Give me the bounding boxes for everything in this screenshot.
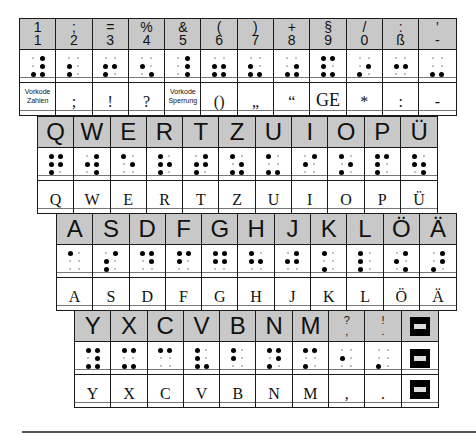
- braille-cell: [275, 245, 310, 278]
- key-+[interactable]: +8“: [274, 19, 310, 115]
- key-K[interactable]: KK: [311, 214, 347, 310]
- braille-dot-3: [158, 170, 163, 175]
- key-E[interactable]: EE: [111, 117, 147, 213]
- key-%[interactable]: %4?: [129, 19, 165, 115]
- braille-dot-2: [305, 357, 307, 359]
- key-block[interactable]: [402, 311, 438, 407]
- key-legend: +8: [274, 19, 309, 50]
- braille-dot-4: [77, 57, 79, 59]
- base-char: ß: [396, 34, 405, 47]
- key-?[interactable]: ?,,: [329, 311, 365, 407]
- braille-dot-1: [68, 251, 73, 256]
- key-![interactable]: !..: [365, 311, 401, 407]
- braille-dot-3: [177, 73, 179, 75]
- key-C[interactable]: CC: [148, 311, 184, 407]
- key-J[interactable]: JJ: [275, 214, 311, 310]
- braille-dot-6: [204, 364, 209, 369]
- key-G[interactable]: GG: [202, 214, 238, 310]
- braille-dot-2: [87, 357, 89, 359]
- key-F[interactable]: FF: [166, 214, 202, 310]
- key-Y[interactable]: YY: [75, 311, 111, 407]
- key-legend: §9: [310, 19, 345, 50]
- key-N[interactable]: NN: [256, 311, 292, 407]
- key-Ä[interactable]: ÄÄ: [420, 214, 456, 310]
- key-)[interactable]: )7„: [238, 19, 274, 115]
- braille-dot-2: [177, 259, 182, 264]
- key-X[interactable]: XX: [111, 311, 147, 407]
- key-O[interactable]: OO: [328, 117, 364, 213]
- base-char: -: [435, 34, 440, 47]
- braille-dot-1: [68, 57, 70, 59]
- key-W[interactable]: WW: [74, 117, 110, 213]
- key-1[interactable]: 11Vorkode Zahlen: [20, 19, 56, 115]
- key-A[interactable]: AA: [57, 214, 93, 310]
- key-V[interactable]: VV: [184, 311, 220, 407]
- key-&[interactable]: &5Vorkode Sperrung: [165, 19, 201, 115]
- key-L[interactable]: LL: [347, 214, 383, 310]
- key-;[interactable]: ;2;: [56, 19, 92, 115]
- braille-dot-2: [231, 356, 236, 361]
- key-([interactable]: (6(): [201, 19, 237, 115]
- braille-cell: [256, 342, 291, 375]
- key-I[interactable]: II: [292, 117, 328, 213]
- braille-dot-1: [378, 349, 380, 351]
- braille-dot-2: [142, 260, 144, 262]
- braille-dot-2: [378, 357, 380, 359]
- braille-dot-4: [186, 251, 191, 256]
- print-char: W: [74, 181, 109, 213]
- braille-dot-5: [132, 357, 134, 359]
- braille-cell: [202, 245, 237, 278]
- key-T[interactable]: TT: [183, 117, 219, 213]
- key-=[interactable]: =3!: [93, 19, 129, 115]
- braille-dot-1: [231, 348, 236, 353]
- braille-dot-4: [312, 154, 317, 159]
- print-char: Z: [219, 181, 254, 213]
- braille-dot-4: [94, 154, 99, 159]
- braille-dot-4: [404, 57, 406, 59]
- braille-cell: [328, 148, 363, 181]
- braille-dot-1: [195, 348, 200, 353]
- braille-dot-1: [412, 154, 417, 159]
- print-char: -: [419, 83, 455, 115]
- braille-dot-5: [314, 357, 316, 359]
- braille-dot-4: [241, 155, 243, 157]
- key-S[interactable]: SS: [93, 214, 129, 310]
- print-char: Q: [38, 181, 73, 213]
- key-/[interactable]: /0*: [347, 19, 383, 115]
- braille-cell: [184, 342, 219, 375]
- key-P[interactable]: PP: [365, 117, 401, 213]
- key-Ö[interactable]: ÖÖ: [384, 214, 420, 310]
- key-legend: ?,: [329, 311, 364, 342]
- braille-dot-3: [285, 72, 290, 77]
- braille-dot-6: [421, 170, 426, 175]
- braille-dot-5: [112, 64, 117, 69]
- key-Z[interactable]: ZZ: [219, 117, 255, 213]
- key-’[interactable]: ’--: [419, 19, 455, 115]
- key-§[interactable]: §9GE: [310, 19, 346, 115]
- key-:[interactable]: :ß:: [383, 19, 419, 115]
- braille-dot-3: [178, 268, 180, 270]
- key-M[interactable]: MM: [293, 311, 329, 407]
- key-B[interactable]: BB: [220, 311, 256, 407]
- braille-dot-5: [222, 259, 227, 264]
- braille-cell: [365, 342, 400, 375]
- braille-dot-1: [322, 251, 327, 256]
- braille-dot-3: [122, 364, 127, 369]
- braille-cell: [57, 245, 92, 278]
- braille-cell: [201, 50, 236, 83]
- base-char: .: [381, 326, 384, 337]
- key-D[interactable]: DD: [130, 214, 166, 310]
- base-char: 0: [360, 34, 368, 47]
- key-Q[interactable]: QQ: [38, 117, 74, 213]
- print-char: !: [93, 83, 128, 115]
- braille-dot-6: [204, 171, 206, 173]
- braille-dot-4: [40, 56, 45, 61]
- braille-dot-6: [350, 365, 352, 367]
- braille-dot-1: [158, 348, 163, 353]
- key-U[interactable]: UU: [256, 117, 292, 213]
- key-H[interactable]: HH: [238, 214, 274, 310]
- key-R[interactable]: RR: [147, 117, 183, 213]
- braille-dot-4: [295, 57, 297, 59]
- key-Ü[interactable]: ÜÜ: [401, 117, 437, 213]
- print-char: L: [347, 278, 382, 310]
